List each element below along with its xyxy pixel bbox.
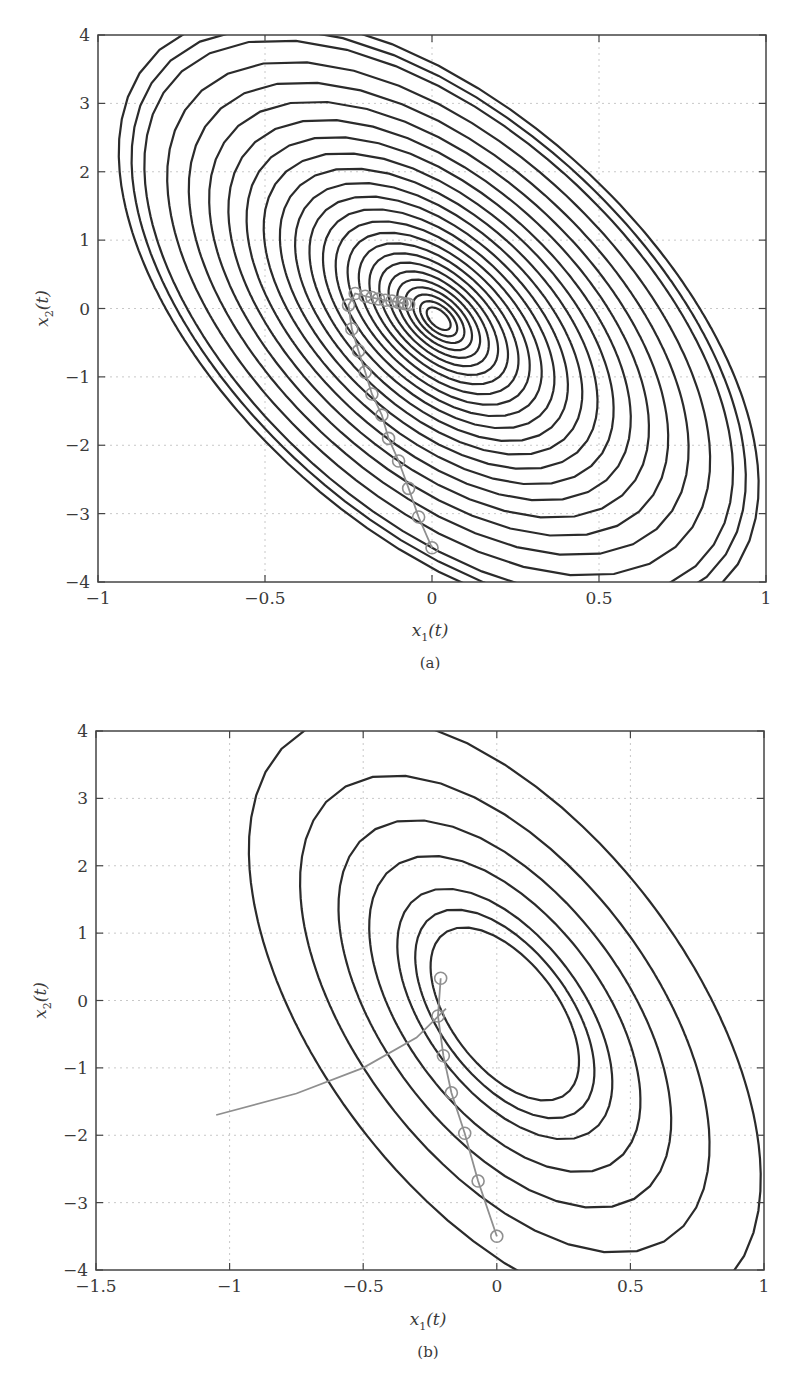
figure: −1−0.500.51−4−3−2−101234x1(t)x2(t)(a)−1.… (0, 0, 791, 1391)
x-axis-label: x1(t) (410, 1309, 447, 1333)
y-tick-label: 2 (77, 856, 88, 876)
escaping-branch (216, 1009, 446, 1115)
y-tick-label: 1 (77, 923, 88, 943)
panel-a: −1−0.500.51−4−3−2−101234x1(t)x2(t)(a) (32, 17, 771, 672)
y-tick-label: 3 (77, 788, 88, 808)
x-tick-label: −0.5 (244, 588, 285, 608)
panel-b: −1.5−1−0.500.51−4−3−2−101234x1(t)x2(t)(b… (30, 716, 769, 1361)
y-tick-label: 0 (79, 299, 90, 319)
y-tick-label: 4 (79, 25, 90, 45)
y-tick-label: −4 (63, 1260, 88, 1280)
x-tick-label: 1 (759, 1276, 770, 1296)
panel-caption: (b) (417, 1343, 438, 1361)
plot-frame (96, 731, 764, 1270)
contour-lines (249, 716, 761, 1311)
y-axis-label: x2(t) (30, 982, 54, 1019)
x-tick-label: 0.5 (585, 588, 612, 608)
x-tick-label: −1 (217, 1276, 242, 1296)
y-tick-label: −3 (65, 504, 90, 524)
y-axis-label: x2(t) (32, 290, 56, 327)
y-tick-label: −2 (65, 435, 90, 455)
y-tick-label: 3 (79, 93, 90, 113)
y-tick-label: −2 (63, 1125, 88, 1145)
x-tick-label: 0.5 (617, 1276, 644, 1296)
y-tick-label: 1 (79, 230, 90, 250)
x-axis-label: x1(t) (412, 620, 449, 644)
y-tick-label: −3 (63, 1193, 88, 1213)
panel-caption: (a) (420, 654, 441, 672)
grid (96, 731, 764, 1270)
y-tick-label: −1 (63, 1058, 88, 1078)
contour-lines (119, 17, 759, 621)
x-tick-label: 1 (761, 588, 772, 608)
x-tick-label: 0 (491, 1276, 502, 1296)
x-tick-label: −0.5 (343, 1276, 384, 1296)
y-tick-label: 2 (79, 162, 90, 182)
y-tick-label: −1 (65, 367, 90, 387)
y-tick-label: −4 (65, 572, 90, 592)
x-tick-label: 0 (427, 588, 438, 608)
y-tick-label: 4 (77, 721, 88, 741)
y-tick-label: 0 (77, 991, 88, 1011)
